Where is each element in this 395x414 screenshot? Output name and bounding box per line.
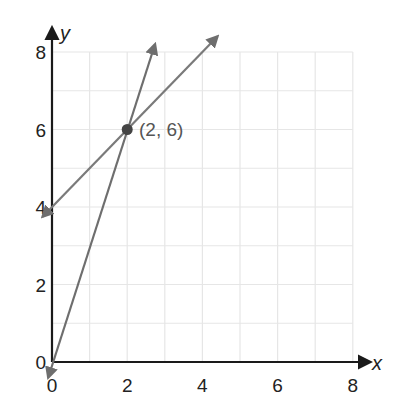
grid: [52, 52, 353, 362]
x-tick-label: 4: [197, 375, 208, 396]
x-tick-label: 8: [348, 375, 359, 396]
point-label: (2, 6): [139, 119, 183, 140]
y-tick-label: 0: [35, 352, 46, 373]
data-points: [122, 124, 133, 135]
x-axis-label: x: [371, 352, 383, 374]
coordinate-plane: x y 02468 02468 (2, 6): [0, 0, 395, 414]
x-tick-label: 2: [122, 375, 133, 396]
y-axis-label: y: [58, 22, 71, 44]
line-y-equals-3x: [48, 44, 155, 377]
x-tick-labels: 02468: [47, 375, 358, 396]
y-tick-label: 6: [35, 120, 46, 141]
y-tick-label: 2: [35, 275, 46, 296]
intersection-point: [122, 124, 133, 135]
y-tick-labels: 02468: [35, 42, 46, 373]
x-tick-label: 0: [47, 375, 58, 396]
y-tick-label: 8: [35, 42, 46, 63]
x-tick-label: 6: [272, 375, 283, 396]
